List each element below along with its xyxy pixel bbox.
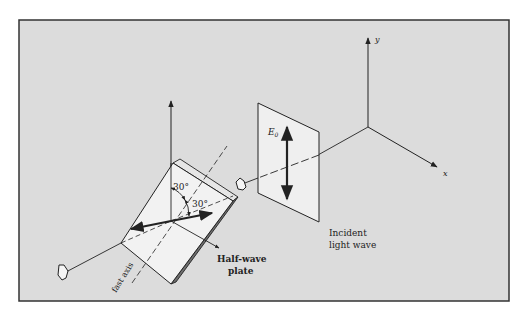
half-wave-plate-label-line1: Half-wave	[217, 254, 267, 264]
x-axis-label: x	[443, 169, 448, 178]
angle-label-1: 30°	[173, 182, 189, 192]
y-axis-label: y	[374, 35, 380, 44]
angle-label-2: 30°	[192, 199, 208, 209]
incident-light-label-line1: Incident	[329, 228, 367, 238]
diagram-canvas: y x E0 30° 30°	[0, 0, 524, 320]
incident-light-label-line2: light wave	[329, 240, 376, 250]
half-wave-plate-label-line2: plate	[228, 266, 254, 276]
